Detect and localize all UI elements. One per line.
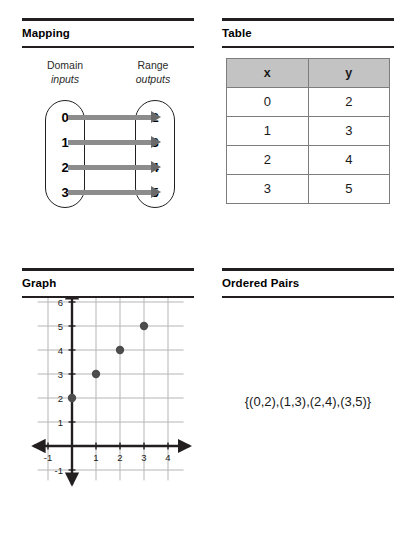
graph-panel: Graph -1123456-11234 xyxy=(22,268,194,488)
table-cell-x: 3 xyxy=(227,174,309,203)
range-label: Range xyxy=(138,59,169,71)
table-cell-y: 5 xyxy=(308,174,390,203)
range-header: Range outputs xyxy=(118,58,188,86)
data-point xyxy=(92,369,100,377)
table-row: 1 3 xyxy=(227,116,390,145)
table-row: 3 5 xyxy=(227,174,390,203)
x-tick-label: 1 xyxy=(93,452,98,463)
graph-svg: -1123456-11234 xyxy=(22,298,194,488)
table-cell-y: 4 xyxy=(308,145,390,174)
mapping-arrow-1 xyxy=(68,140,152,145)
y-tick-label: 5 xyxy=(58,321,63,332)
table-title: Table xyxy=(222,21,394,46)
mapping-column-headers: Domain inputs Range outputs xyxy=(22,58,194,98)
table-panel: Table x y 0 2 1 3 2 4 xyxy=(222,18,394,238)
data-point xyxy=(140,321,148,329)
table-header-row: x y xyxy=(227,58,390,87)
x-tick-label: 3 xyxy=(141,452,146,463)
table-cell-x: 1 xyxy=(227,116,309,145)
y-tick-label: -1 xyxy=(55,465,63,476)
table-cell-x: 0 xyxy=(227,87,309,116)
graph-body: -1123456-11234 xyxy=(22,298,194,488)
range-sublabel: outputs xyxy=(118,72,188,86)
x-tick-label: -1 xyxy=(44,452,52,463)
ordered-pairs-title: Ordered Pairs xyxy=(222,271,394,296)
mapping-arrow-2 xyxy=(68,165,152,170)
x-tick-label: 4 xyxy=(165,452,170,463)
mapping-arrow-0 xyxy=(68,115,152,120)
mapping-title: Mapping xyxy=(22,21,194,46)
ordered-pairs-set: {(0,2),(1,3),(2,4),(3,5)} xyxy=(222,394,394,409)
coordinate-plane: -1123456-11234 xyxy=(22,298,194,488)
domain-label: Domain xyxy=(47,59,83,71)
y-tick-label: 1 xyxy=(58,417,63,428)
y-tick-label: 6 xyxy=(58,298,63,308)
table-header-x: x xyxy=(227,58,309,87)
y-tick-label: 3 xyxy=(58,369,63,380)
mapping-body: Domain inputs Range outputs 0 1 2 3 2 3 … xyxy=(22,48,194,238)
table-row: 0 2 xyxy=(227,87,390,116)
table-cell-y: 2 xyxy=(308,87,390,116)
table-header-y: y xyxy=(308,58,390,87)
mapping-arrow-3 xyxy=(68,190,152,195)
table-cell-y: 3 xyxy=(308,116,390,145)
table-row: 2 4 xyxy=(227,145,390,174)
graph-title: Graph xyxy=(22,271,194,296)
mapping-panel: Mapping Domain inputs Range outputs 0 1 … xyxy=(22,18,194,238)
y-tick-label: 2 xyxy=(58,393,63,404)
ordered-pairs-body: {(0,2),(1,3),(2,4),(3,5)} xyxy=(222,298,394,488)
y-tick-label: 4 xyxy=(58,345,63,356)
data-point xyxy=(68,393,76,401)
domain-header: Domain inputs xyxy=(30,58,100,86)
x-tick-label: 2 xyxy=(117,452,122,463)
ordered-pairs-panel: Ordered Pairs {(0,2),(1,3),(2,4),(3,5)} xyxy=(222,268,394,488)
function-table: x y 0 2 1 3 2 4 3 5 xyxy=(226,58,390,204)
domain-sublabel: inputs xyxy=(30,72,100,86)
table-body: x y 0 2 1 3 2 4 3 5 xyxy=(222,48,394,238)
data-point xyxy=(116,345,124,353)
table-cell-x: 2 xyxy=(227,145,309,174)
